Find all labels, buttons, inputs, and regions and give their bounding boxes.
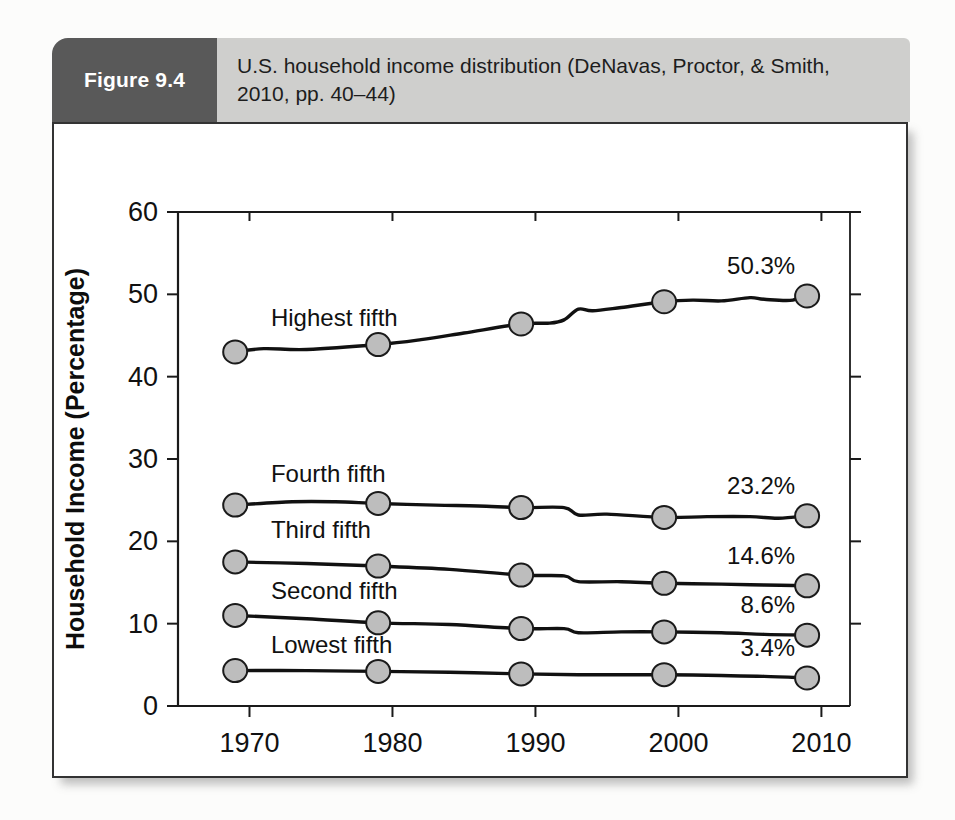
data-point-marker[interactable] <box>652 620 676 643</box>
data-point-marker[interactable] <box>795 574 819 597</box>
data-point-marker[interactable] <box>795 667 819 690</box>
data-point-marker[interactable] <box>509 312 533 335</box>
y-tick-label-50: 50 <box>128 279 158 309</box>
y-tick-label-30: 30 <box>128 444 158 474</box>
data-point-marker[interactable] <box>509 662 533 685</box>
series-value-label-2: 14.6% <box>727 542 795 569</box>
y-tick-label-60: 60 <box>128 197 158 227</box>
data-point-marker[interactable] <box>223 604 247 627</box>
data-point-marker[interactable] <box>652 663 676 686</box>
figure-title: U.S. household income distribution (DeNa… <box>237 52 877 108</box>
data-point-marker[interactable] <box>795 284 819 307</box>
y-tick-label-40: 40 <box>128 362 158 392</box>
y-tick-label-0: 0 <box>143 691 158 721</box>
figure-number-badge: Figure 9.4 <box>52 38 217 122</box>
data-point-marker[interactable] <box>366 492 390 515</box>
data-point-marker[interactable] <box>795 504 819 527</box>
series-value-label-4: 3.4% <box>740 634 795 661</box>
series-value-label-3: 8.6% <box>740 591 795 618</box>
data-point-marker[interactable] <box>509 617 533 640</box>
data-point-marker[interactable] <box>223 659 247 682</box>
figure-page: Figure 9.4 U.S. household income distrib… <box>0 0 955 820</box>
data-point-marker[interactable] <box>652 506 676 529</box>
series-value-label-1: 23.2% <box>727 472 795 499</box>
chart-panel: 010203040506019701980199020002010YearHou… <box>52 122 908 778</box>
series-label-4: Lowest fifth <box>271 631 392 658</box>
data-point-marker[interactable] <box>366 660 390 683</box>
data-point-marker[interactable] <box>652 572 676 595</box>
x-tick-label-2010: 2010 <box>791 728 851 758</box>
figure-card: Figure 9.4 U.S. household income distrib… <box>52 38 910 780</box>
data-point-marker[interactable] <box>795 624 819 647</box>
data-point-marker[interactable] <box>652 290 676 313</box>
series-label-3: Second fifth <box>271 577 398 604</box>
x-tick-label-1990: 1990 <box>505 728 565 758</box>
series-label-2: Third fifth <box>271 516 371 543</box>
data-point-marker[interactable] <box>509 496 533 519</box>
x-tick-label-1980: 1980 <box>362 728 422 758</box>
data-point-marker[interactable] <box>223 340 247 363</box>
data-point-marker[interactable] <box>366 555 390 578</box>
data-point-marker[interactable] <box>366 333 390 356</box>
x-tick-label-2000: 2000 <box>648 728 708 758</box>
y-axis-title: Household Income (Percentage) <box>61 268 89 650</box>
series-value-label-0: 50.3% <box>727 252 795 279</box>
x-axis-title: Year <box>488 775 541 776</box>
series-label-0: Highest fifth <box>271 304 398 331</box>
line-chart: 010203040506019701980199020002010YearHou… <box>54 124 906 776</box>
figure-title-bar: U.S. household income distribution (DeNa… <box>217 38 910 122</box>
x-tick-label-1970: 1970 <box>219 728 279 758</box>
data-point-marker[interactable] <box>223 494 247 517</box>
y-tick-label-20: 20 <box>128 526 158 556</box>
data-point-marker[interactable] <box>223 550 247 573</box>
data-point-marker[interactable] <box>509 564 533 587</box>
figure-number-label: Figure 9.4 <box>84 68 185 92</box>
figure-header: Figure 9.4 U.S. household income distrib… <box>52 38 910 122</box>
series-label-1: Fourth fifth <box>271 460 386 487</box>
y-tick-label-10: 10 <box>128 609 158 639</box>
